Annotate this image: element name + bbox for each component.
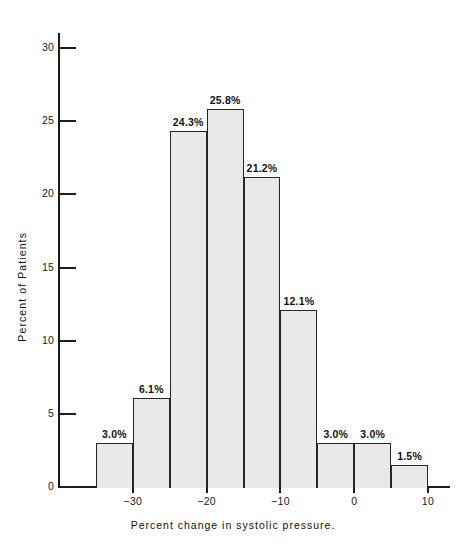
- bar-fill-texture: [245, 178, 280, 488]
- bar-fill-texture: [392, 466, 427, 488]
- y-tick: [60, 413, 76, 415]
- plot-area: 051015202530 −30−20−10010 3.0%6.1%24.3%2…: [0, 0, 466, 548]
- bar-fill-texture: [318, 444, 353, 488]
- y-axis-line: [58, 33, 60, 488]
- bar-value-label: 6.1%: [139, 383, 164, 395]
- histogram-bar: [354, 443, 391, 488]
- x-tick-label: −10: [271, 495, 290, 507]
- x-tick-label: 10: [422, 495, 434, 507]
- histogram-figure: 051015202530 −30−20−10010 3.0%6.1%24.3%2…: [0, 0, 466, 548]
- y-tick: [60, 193, 76, 195]
- histogram-bar: [317, 443, 354, 488]
- bar-value-label: 3.0%: [323, 428, 348, 440]
- bar-fill-texture: [134, 399, 169, 488]
- histogram-bar: [96, 443, 133, 488]
- y-tick: [60, 340, 76, 342]
- histogram-bar: [170, 131, 207, 488]
- bar-value-label: 1.5%: [397, 450, 422, 462]
- bar-fill-texture: [97, 444, 132, 488]
- y-tick-label: 20: [36, 187, 54, 199]
- y-tick-label: 30: [36, 41, 54, 53]
- y-tick-label: 15: [36, 261, 54, 273]
- x-axis-title: Percent change in systolic pressure.: [0, 519, 466, 531]
- y-axis-title: Percent of Patients: [16, 232, 28, 342]
- y-tick-label: 10: [36, 334, 54, 346]
- bar-value-label: 21.2%: [247, 162, 278, 174]
- y-tick-label: 0: [36, 480, 54, 492]
- histogram-bar: [391, 465, 428, 488]
- histogram-bar: [244, 177, 281, 488]
- histogram-bar: [280, 310, 317, 488]
- bar-fill-texture: [208, 110, 243, 488]
- y-tick: [60, 486, 76, 488]
- bar-value-label: 25.8%: [210, 94, 241, 106]
- bar-value-label: 3.0%: [360, 428, 385, 440]
- histogram-bar: [133, 398, 170, 488]
- bar-fill-texture: [171, 132, 206, 488]
- x-tick-label: −20: [197, 495, 216, 507]
- bar-fill-texture: [355, 444, 390, 488]
- y-tick: [60, 47, 76, 49]
- bar-value-label: 3.0%: [102, 428, 127, 440]
- y-tick-label: 25: [36, 114, 54, 126]
- x-tick-label: 0: [351, 495, 357, 507]
- y-tick-label: 5: [36, 407, 54, 419]
- x-tick-label: −30: [124, 495, 143, 507]
- histogram-bar: [207, 109, 244, 488]
- bar-value-label: 24.3%: [173, 116, 204, 128]
- bar-value-label: 12.1%: [283, 295, 314, 307]
- y-tick: [60, 267, 76, 269]
- y-tick: [60, 120, 76, 122]
- bar-fill-texture: [281, 311, 316, 488]
